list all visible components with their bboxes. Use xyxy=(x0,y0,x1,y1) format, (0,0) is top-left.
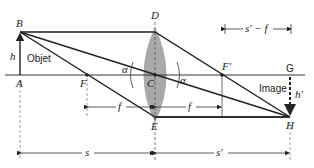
label-E: E xyxy=(150,120,158,132)
label-s: s xyxy=(85,146,89,158)
label-F-prime: F′ xyxy=(221,60,232,72)
label-D: D xyxy=(150,9,159,21)
label-s-prime-minus-f: s′ − f xyxy=(245,22,270,34)
label-image: Image xyxy=(259,83,287,94)
label-H: H xyxy=(285,119,295,131)
label-C: C xyxy=(147,77,155,89)
label-s-prime: s′ xyxy=(216,146,223,158)
label-A: A xyxy=(15,77,23,89)
label-F: F xyxy=(79,77,87,89)
label-alpha-right: α xyxy=(180,74,186,86)
label-B: B xyxy=(16,17,23,29)
point-F-prime xyxy=(220,73,224,77)
label-h: h xyxy=(10,50,16,62)
label-objet: Objet xyxy=(27,53,51,64)
lens-diagram: B A h Objet D C E F F′ G H Image h′ α α … xyxy=(0,0,314,168)
label-h-prime: h′ xyxy=(295,88,304,100)
label-alpha-left: α xyxy=(122,63,128,75)
label-G: G xyxy=(286,63,294,74)
